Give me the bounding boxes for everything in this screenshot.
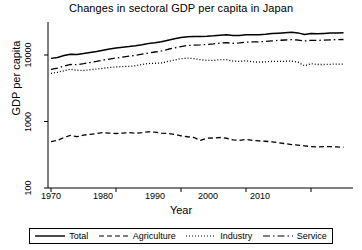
- x-axis-ticks: [51, 188, 311, 192]
- legend-label-service: Service: [297, 232, 327, 241]
- series-line-service: [51, 40, 344, 70]
- axis-lines: [48, 22, 353, 188]
- legend-sample-solid: [35, 232, 65, 240]
- legend-entry-industry: Industry: [186, 232, 252, 241]
- data-series-group: [51, 32, 344, 147]
- chart-figure: Changes in sectoral GDP per capita in Ja…: [0, 0, 362, 250]
- legend-entry-service: Service: [263, 232, 327, 241]
- legend-label-agriculture: Agriculture: [133, 232, 176, 241]
- legend-entry-total: Total: [35, 232, 88, 241]
- chart-legend: Total Agriculture Industry Service: [29, 228, 333, 244]
- legend-sample-dashed: [99, 232, 129, 240]
- plot-canvas: [0, 0, 362, 250]
- legend-label-industry: Industry: [220, 232, 252, 241]
- legend-sample-dashdot: [263, 232, 293, 240]
- legend-entry-agriculture: Agriculture: [99, 232, 176, 241]
- legend-label-total: Total: [69, 232, 88, 241]
- legend-sample-dotted: [186, 232, 216, 240]
- series-line-industry: [51, 58, 344, 73]
- y-axis-ticks: [44, 55, 48, 188]
- series-line-agriculture: [51, 132, 344, 147]
